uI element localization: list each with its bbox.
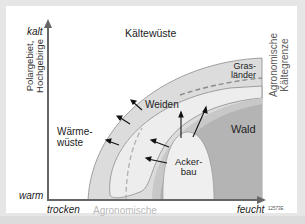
bottom-frame: [0, 216, 305, 224]
grassland-label: Gras- länder: [231, 62, 256, 80]
y-axis-bottom-label: warm: [19, 191, 43, 201]
cold-desert-label: Kältewüste: [125, 28, 176, 38]
y-axis-side-label: Polargebiet, Hochgebirge: [25, 36, 45, 96]
x-axis-left-label: trocken: [47, 205, 80, 215]
farmland-label: Acker- bau: [175, 157, 202, 177]
pasture-label: Weiden: [145, 100, 179, 110]
cold-limit-label: Agronomische Kältegrenze: [268, 20, 290, 110]
forest-label: Wald: [231, 124, 256, 134]
x-axis-right-label: feucht: [237, 205, 264, 215]
warm-desert-label: Wärme- wüste: [57, 126, 93, 148]
y-axis-arrowhead: [44, 19, 52, 28]
figure-code: 12573E: [268, 206, 284, 211]
